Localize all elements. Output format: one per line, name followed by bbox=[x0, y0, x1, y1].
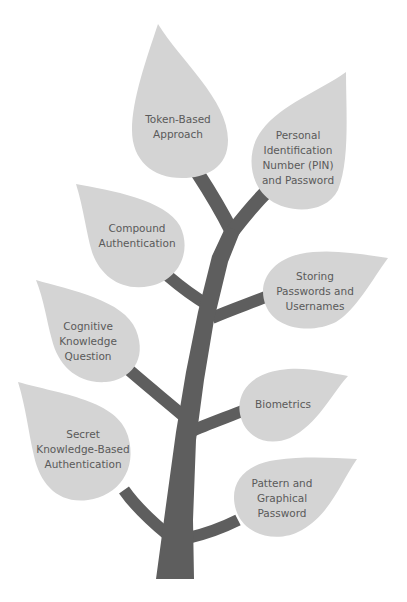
label-token-based: Token-Based Approach bbox=[145, 112, 211, 142]
branch-pattern bbox=[188, 520, 238, 538]
branch-storing bbox=[212, 296, 268, 318]
label-biometrics: Biometrics bbox=[255, 397, 311, 412]
label-storing: Storing Passwords and Usernames bbox=[276, 269, 354, 314]
label-cognitive: Cognitive Knowledge Question bbox=[59, 319, 117, 364]
label-pattern-graphical: Pattern and Graphical Password bbox=[252, 476, 313, 521]
leaf-token-based bbox=[132, 24, 228, 178]
label-pin-password: Personal Identification Number (PIN) and… bbox=[262, 128, 334, 188]
label-secret-knowledge: Secret Knowledge-Based Authentication bbox=[36, 427, 129, 472]
label-compound: Compound Authentication bbox=[98, 221, 175, 251]
branch-token-based bbox=[197, 172, 232, 232]
branch-secret bbox=[124, 490, 168, 535]
